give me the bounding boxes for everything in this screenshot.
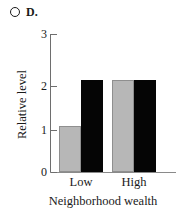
y-axis-tick-label: 3 xyxy=(33,28,47,40)
x-axis-category-label: High xyxy=(107,175,161,189)
x-axis-category-label: Low xyxy=(54,175,108,189)
y-axis-tick-mark xyxy=(51,34,57,35)
chart-panel-d: D. 3 2 1 0 Relative level Low High Neigh… xyxy=(0,0,182,214)
bar-low-black xyxy=(81,80,103,172)
y-axis-title: Relative level xyxy=(16,40,29,170)
bar-high-black xyxy=(134,80,156,172)
y-axis-line xyxy=(50,34,51,173)
panel-header: D. xyxy=(10,4,38,20)
bar-low-gray xyxy=(59,126,81,172)
radio-circle-unselected-icon[interactable] xyxy=(10,7,20,17)
y-axis-tick-label: 2 xyxy=(33,80,47,92)
y-axis-tick-mark xyxy=(51,86,57,87)
x-axis-line xyxy=(50,172,176,173)
bar-high-gray xyxy=(112,80,134,172)
x-axis-title: Neighborhood wealth xyxy=(24,194,182,208)
y-axis-tick-label: 1 xyxy=(33,124,47,136)
y-axis-tick-mark xyxy=(51,130,57,131)
y-axis-tick-label: 0 xyxy=(33,166,47,178)
panel-label: D. xyxy=(26,6,38,18)
y-axis-tick-mark xyxy=(51,172,57,173)
